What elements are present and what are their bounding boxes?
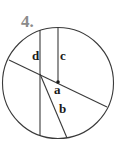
label-a: a [54, 82, 61, 97]
label-b: b [59, 101, 66, 116]
label-d: d [32, 48, 40, 63]
problem-number: 4. [21, 12, 34, 31]
circle-diagram: 4. d c a b [0, 0, 119, 147]
label-c: c [60, 48, 66, 63]
